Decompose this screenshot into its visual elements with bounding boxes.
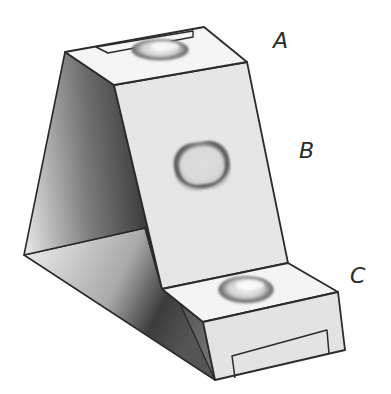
blob-a (131, 39, 189, 61)
blob-c (218, 276, 274, 304)
figure-canvas: A B C (0, 0, 391, 394)
label-c: C (350, 265, 365, 287)
label-a: A (273, 30, 288, 52)
label-b: B (299, 140, 314, 162)
stepped-block-drawing (0, 0, 391, 394)
